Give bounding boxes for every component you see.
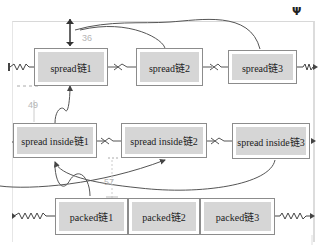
packed-chain-node-2[interactable]: packed链2: [128, 198, 200, 235]
spread-chain-node-2[interactable]: spread链2: [136, 48, 203, 86]
spread-inside-chain-node-1[interactable]: spread inside链1: [13, 123, 97, 158]
node-label: spread inside链1: [21, 133, 89, 148]
node-label: packed链2: [142, 209, 185, 224]
dimension-top-margin: 36: [82, 33, 92, 43]
node-label: spread链2: [149, 60, 190, 75]
node-label: spread链1: [50, 60, 91, 75]
dimension-row-gap: 49: [28, 100, 38, 110]
packed-chain-node-3[interactable]: packed链3: [200, 198, 275, 235]
spread-chain-node-1[interactable]: spread链1: [34, 48, 108, 86]
node-label: spread inside链3: [237, 134, 305, 149]
spread-inside-chain-node-2[interactable]: spread inside链2: [121, 123, 207, 158]
packed-chain-node-1[interactable]: packed链1: [55, 198, 128, 235]
node-label: packed链1: [70, 209, 113, 224]
node-label: spread inside链2: [130, 133, 198, 148]
dimension-inner-gap: 57: [104, 177, 114, 187]
node-label: spread链3: [242, 60, 283, 75]
node-label: packed链3: [216, 209, 259, 224]
spread-chain-node-3[interactable]: spread链3: [228, 50, 297, 84]
diagram-canvas: Ψ: [0, 0, 326, 250]
spread-inside-chain-node-3[interactable]: spread inside链3: [232, 123, 310, 159]
